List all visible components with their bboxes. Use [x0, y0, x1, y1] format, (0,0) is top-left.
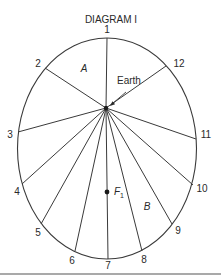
position-label-9: 9 [175, 225, 181, 236]
position-label-1: 1 [104, 24, 110, 35]
position-label-3: 3 [7, 129, 13, 140]
f1-subscript: 1 [120, 192, 124, 199]
f1-label: F1 [114, 186, 124, 199]
radial-line-9 [106, 108, 172, 224]
region-label-b: B [144, 201, 151, 212]
radial-line-1 [106, 38, 107, 108]
earth-pointer-line [112, 92, 126, 104]
radial-line-8 [106, 108, 142, 251]
orbit-diagram: DIAGRAM I 123456789101112 Earth A B F1 [0, 0, 223, 277]
position-label-6: 6 [69, 255, 75, 266]
position-label-5: 5 [35, 227, 41, 238]
focus-point [104, 106, 108, 110]
position-label-12: 12 [173, 58, 185, 69]
radial-line-11 [106, 108, 196, 139]
radial-line-10 [106, 108, 193, 185]
f1-focus-dot [105, 190, 110, 195]
diagram-title: DIAGRAM I [85, 14, 137, 25]
position-label-10: 10 [196, 183, 208, 194]
region-label-a: A [80, 63, 88, 74]
position-label-11: 11 [201, 129, 212, 140]
position-label-7: 7 [105, 260, 111, 271]
radial-line-7 [106, 108, 108, 259]
earth-label: Earth [117, 75, 141, 86]
position-labels: 123456789101112 [7, 24, 211, 271]
position-label-4: 4 [14, 186, 20, 197]
radial-line-2 [45, 68, 106, 108]
position-label-8: 8 [141, 254, 147, 265]
radial-line-5 [41, 108, 106, 224]
radial-line-6 [75, 108, 106, 251]
radial-lines [18, 38, 196, 259]
position-label-2: 2 [35, 58, 41, 69]
